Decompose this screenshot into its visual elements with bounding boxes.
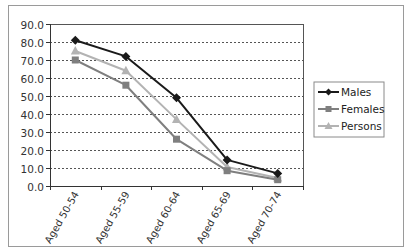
x-category-label: Aged 55-59	[93, 190, 131, 246]
legend-label-persons: Persons	[341, 120, 382, 132]
y-tick-label: 80.0	[21, 37, 44, 49]
y-tick-label: 70.0	[21, 55, 44, 67]
y-axis: 0.010.020.030.040.050.060.070.080.090.0	[21, 19, 51, 193]
data-point-marker	[173, 136, 180, 143]
legend-label-males: Males	[341, 86, 371, 98]
x-axis: Aged 50-54Aged 55-59Aged 60-64Aged 65-69…	[43, 186, 304, 245]
data-point-marker	[71, 36, 80, 45]
x-category-label: Aged 60-64	[144, 190, 182, 246]
x-category-label: Aged 65-69	[194, 190, 232, 246]
y-tick-label: 10.0	[21, 163, 44, 175]
y-tick-label: 30.0	[21, 127, 44, 139]
legend: Males Females Persons	[314, 82, 384, 137]
square-marker-icon	[326, 106, 332, 112]
y-tick-label: 20.0	[21, 145, 44, 157]
data-point-marker	[122, 82, 129, 89]
legend-label-females: Females	[341, 103, 384, 115]
y-tick-label: 90.0	[21, 19, 44, 31]
x-category-label: Aged 70-74	[245, 190, 283, 246]
data-point-marker	[71, 46, 80, 55]
y-tick-label: 40.0	[21, 109, 44, 121]
line-chart: 0.010.020.030.040.050.060.070.080.090.0 …	[0, 0, 409, 252]
y-tick-label: 0.0	[27, 181, 44, 193]
series-persons	[71, 46, 282, 181]
data-series	[71, 36, 282, 184]
data-point-marker	[224, 167, 231, 174]
x-category-label: Aged 50-54	[43, 190, 81, 246]
series-males	[71, 36, 282, 178]
y-tick-label: 50.0	[21, 91, 44, 103]
gridlines	[50, 24, 304, 186]
y-tick-label: 60.0	[21, 73, 44, 85]
data-point-marker	[72, 57, 79, 64]
